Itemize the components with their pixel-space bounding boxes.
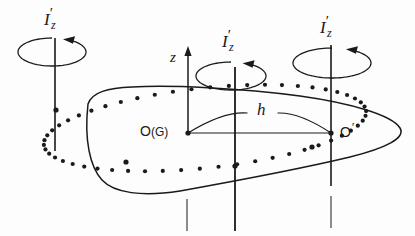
ellipse-dot	[43, 147, 47, 151]
label-inertia-left: I′z	[44, 6, 56, 31]
subscript-z: z	[229, 40, 234, 54]
ellipse-dot	[161, 169, 165, 173]
ellipse-dot	[53, 155, 57, 159]
ellipse-dot	[253, 159, 257, 163]
ellipse-dot	[171, 90, 175, 94]
ellipse-dot	[296, 84, 300, 88]
ellipse-dot	[345, 93, 349, 97]
ellipse-dot	[361, 119, 365, 123]
ellipse-dot	[153, 93, 157, 97]
ellipse-dot	[50, 128, 54, 132]
ellipse-dot	[61, 159, 65, 163]
ellipse-dot	[77, 113, 81, 117]
ellipse-dot	[363, 114, 367, 118]
prime-mark: ′	[351, 119, 354, 134]
ellipse-dot	[227, 84, 231, 88]
ellipse-dot	[66, 118, 70, 122]
origin-symbol: O	[140, 123, 151, 139]
ellipse-dot	[335, 90, 339, 94]
ellipse-dot	[216, 165, 220, 169]
ellipse-dot	[103, 104, 107, 108]
ellipse-dot	[42, 143, 46, 147]
ellipse-dot	[353, 96, 357, 100]
ellipse-dot	[245, 83, 249, 87]
label-z-axis: z	[170, 50, 176, 65]
ellipse-dot	[356, 124, 360, 128]
ellipse-dot	[82, 164, 86, 168]
ellipse-dot	[42, 138, 46, 142]
label-inertia-middle: I′z	[222, 28, 234, 53]
ellipse-dot	[359, 100, 363, 104]
ellipse-dot	[198, 167, 202, 171]
ellipse-dot	[135, 96, 139, 100]
ellipse-dot	[317, 143, 321, 147]
physics-diagram: I′z I′z I′z z h O(G) O′	[0, 0, 415, 236]
ellipse-dot	[271, 156, 275, 160]
ellipse-dot	[263, 83, 267, 87]
ellipse-dot	[287, 152, 291, 156]
label-origin-prime: O′	[340, 120, 354, 139]
point-blob-front	[123, 159, 128, 164]
ellipse-dot	[143, 169, 147, 173]
ellipse-dot	[302, 148, 306, 152]
ellipse-dot	[362, 104, 366, 108]
ellipse-dot	[110, 168, 114, 172]
canvas-background	[0, 0, 415, 236]
point-origin	[185, 130, 190, 135]
origin-centroid: (G)	[151, 125, 168, 139]
point-center-axis-front	[232, 163, 237, 168]
ellipse-dot	[89, 109, 93, 113]
ellipse-dot	[45, 133, 49, 137]
label-origin: O(G)	[140, 124, 168, 138]
subscript-z: z	[51, 18, 56, 32]
ellipse-dot	[71, 162, 75, 166]
ellipse-dot	[324, 87, 328, 91]
ellipse-dot	[310, 85, 314, 89]
label-distance-h: h	[257, 101, 266, 118]
origin-prime-symbol: O	[340, 124, 351, 140]
ellipse-dot	[179, 168, 183, 172]
point-left-axis	[53, 107, 58, 112]
ellipse-dot	[57, 123, 61, 127]
label-inertia-right: I′z	[320, 14, 332, 39]
ellipse-dot	[119, 100, 123, 104]
ellipse-dot	[280, 83, 284, 87]
diagram-canvas	[0, 0, 415, 236]
point-right-front	[309, 144, 314, 149]
subscript-z: z	[327, 26, 332, 40]
ellipse-dot	[126, 169, 130, 173]
ellipse-dot	[47, 152, 51, 156]
point-origin-prime	[328, 130, 333, 135]
